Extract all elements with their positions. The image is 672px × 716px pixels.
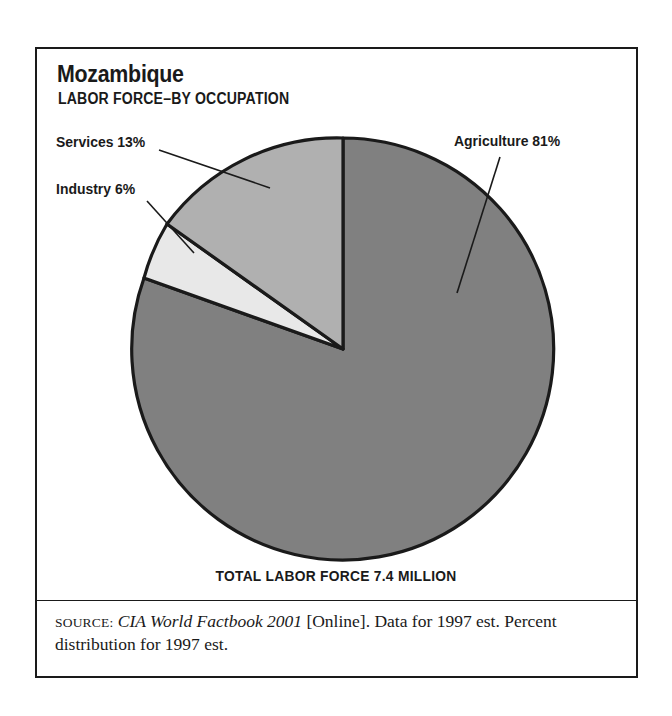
- chart-subtitle: LABOR FORCE–BY OCCUPATION: [58, 90, 289, 108]
- slice-label-services: Services 13%: [56, 133, 145, 151]
- figure-frame: Mozambique LABOR FORCE–BY OCCUPATION Ser…: [35, 47, 638, 678]
- source-divider: [37, 600, 636, 601]
- source-note: SOURCE: CIA World Factbook 2001 [Online]…: [55, 610, 622, 657]
- total-labor-force-text: TOTAL LABOR FORCE 7.4 MILLION: [216, 567, 457, 584]
- chart-title: Mozambique: [57, 61, 184, 88]
- source-kicker: SOURCE:: [55, 615, 113, 630]
- total-labor-force-label: TOTAL LABOR FORCE 7.4 MILLION: [37, 567, 636, 584]
- slice-label-industry: Industry 6%: [56, 180, 135, 198]
- source-publication: CIA World Factbook 2001: [118, 611, 302, 631]
- slice-label-agriculture: Agriculture 81%: [454, 132, 560, 150]
